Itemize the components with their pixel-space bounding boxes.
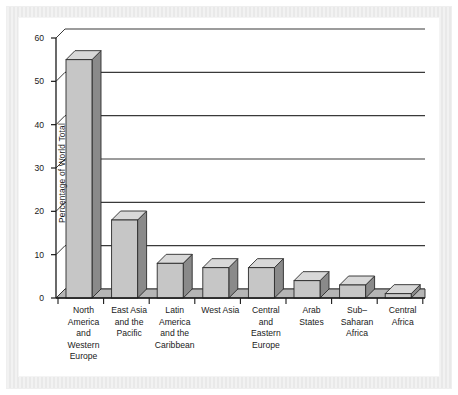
x-tick-label-line: and xyxy=(242,317,290,329)
figure-frame: Percentage of World Total 0102030405060 … xyxy=(0,0,458,395)
bar-side-face xyxy=(92,51,101,298)
bars-group xyxy=(66,51,420,298)
y-tick-label-50: 50 xyxy=(22,76,44,86)
x-axis-tick-labels: NorthAmericaandWesternEuropeEast Asiaand… xyxy=(55,305,427,389)
x-tick-label-0: NorthAmericaandWesternEurope xyxy=(60,305,108,363)
x-tick-label-3: West Asia xyxy=(196,305,244,317)
x-tick-label-line: Western xyxy=(60,340,108,352)
x-tick-label-line: Africa xyxy=(379,317,427,329)
x-tick-label-2: LatinAmericaand theCaribbean xyxy=(151,305,199,351)
bar-6[interactable] xyxy=(340,276,375,298)
y-tick-label-0: 0 xyxy=(22,293,44,303)
bar-front-face xyxy=(248,268,274,298)
x-tick-label-4: CentralandEasternEurope xyxy=(242,305,290,351)
y-tick-label-20: 20 xyxy=(22,206,44,216)
x-tick-label-line: Latin xyxy=(151,305,199,317)
bar-5[interactable] xyxy=(294,272,329,298)
bar-front-face xyxy=(112,220,138,298)
bar-front-face xyxy=(203,268,229,298)
x-tick-label-line: North xyxy=(60,305,108,317)
y-tick-label-10: 10 xyxy=(22,250,44,260)
y-axis-title: Percentage of World Total xyxy=(57,73,67,273)
bar-1[interactable] xyxy=(112,211,147,298)
x-tick-label-line: and the xyxy=(151,328,199,340)
x-tick-label-line: East Asia xyxy=(105,305,153,317)
bar-front-face xyxy=(340,285,366,298)
bar-0[interactable] xyxy=(66,51,101,298)
x-tick-label-line: Central xyxy=(242,305,290,317)
x-tick-label-line: Europe xyxy=(60,351,108,363)
x-tick-label-line: Eastern xyxy=(242,328,290,340)
bar-3[interactable] xyxy=(203,259,238,298)
x-tick-label-1: East Asiaand thePacific xyxy=(105,305,153,340)
bar-front-face xyxy=(294,281,320,298)
x-tick-label-line: West Asia xyxy=(196,305,244,317)
x-tick-marks xyxy=(58,298,423,304)
x-tick-label-line: Saharan xyxy=(333,317,381,329)
y-axis-tick-labels: 0102030405060 xyxy=(22,0,44,395)
y-tick-label-40: 40 xyxy=(22,120,44,130)
x-tick-label-line: America xyxy=(151,317,199,329)
y-tick-label-30: 30 xyxy=(22,163,44,173)
bar-2[interactable] xyxy=(157,254,192,298)
x-tick-label-line: Pacific xyxy=(105,328,153,340)
bar-4[interactable] xyxy=(248,259,283,298)
bar-front-face xyxy=(157,263,183,298)
x-tick-label-7: CentralAfrica xyxy=(379,305,427,328)
x-tick-label-line: and the xyxy=(105,317,153,329)
x-tick-label-line: Europe xyxy=(242,340,290,352)
x-tick-label-6: Sub–SaharanAfrica xyxy=(333,305,381,340)
bar-side-face xyxy=(138,211,147,298)
x-tick-label-5: ArabStates xyxy=(288,305,336,328)
x-tick-label-line: America xyxy=(60,317,108,329)
x-tick-label-line: Sub– xyxy=(333,305,381,317)
x-tick-label-line: Central xyxy=(379,305,427,317)
bar-front-face xyxy=(66,60,92,298)
gridline-depth-60 xyxy=(56,29,65,38)
y-tick-label-60: 60 xyxy=(22,33,44,43)
x-tick-label-line: Africa xyxy=(333,328,381,340)
x-tick-label-line: States xyxy=(288,317,336,329)
x-tick-label-line: and xyxy=(60,328,108,340)
x-tick-label-line: Caribbean xyxy=(151,340,199,352)
x-tick-label-line: Arab xyxy=(288,305,336,317)
